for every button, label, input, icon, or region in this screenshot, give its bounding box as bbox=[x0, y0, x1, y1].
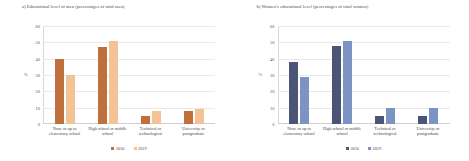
y-tick: 0 bbox=[272, 122, 274, 127]
panel-title-men: a) Educational level of men (percentages… bbox=[22, 4, 172, 10]
legend-label: 2010 bbox=[350, 146, 359, 151]
bar bbox=[55, 59, 64, 124]
y-tick: 0 bbox=[38, 122, 40, 127]
x-axis-tick-label: None or up to elementary school bbox=[278, 126, 321, 137]
bar bbox=[195, 109, 204, 124]
bar bbox=[152, 111, 161, 124]
y-tick: 40 bbox=[36, 56, 40, 61]
x-axis-labels-men: None or up to elementary schoolHigh scho… bbox=[43, 126, 215, 137]
x-axis-tick-label: Technical or technological bbox=[129, 126, 172, 137]
legend-item[interactable]: 2010 bbox=[346, 146, 359, 151]
bar bbox=[429, 108, 438, 124]
y-tick: 60 bbox=[270, 24, 274, 29]
panel-title-women: b) Women's educational level (percentage… bbox=[257, 4, 407, 10]
x-axis-tick-label: None or up to elementary school bbox=[43, 126, 86, 137]
bar bbox=[184, 111, 193, 124]
bar bbox=[109, 41, 118, 124]
y-tick: 30 bbox=[270, 73, 274, 78]
x-axis-tick-label: High school or middle school bbox=[86, 126, 129, 137]
panel-women: b) Women's educational level (percentage… bbox=[235, 0, 469, 161]
bar-group bbox=[278, 26, 321, 124]
bar bbox=[418, 116, 427, 124]
y-tick: 20 bbox=[36, 89, 40, 94]
legend-label: 2010 bbox=[116, 146, 125, 151]
y-tick: 10 bbox=[270, 105, 274, 110]
bar bbox=[300, 77, 309, 124]
legend-women: 20102019 bbox=[278, 146, 450, 151]
x-axis-tick-label: University or postgraduate bbox=[172, 126, 215, 137]
plot-area-women: 60 50 40 30 20 10 0 bbox=[278, 26, 450, 124]
bar-group bbox=[86, 26, 129, 124]
figure-container: a) Educational level of men (percentages… bbox=[0, 0, 469, 161]
y-axis-label-men: % bbox=[24, 72, 28, 77]
y-tick: 50 bbox=[270, 40, 274, 45]
bar-group bbox=[129, 26, 172, 124]
bar bbox=[386, 108, 395, 124]
bar bbox=[66, 75, 75, 124]
legend-label: 2019 bbox=[138, 146, 147, 151]
y-tick: 30 bbox=[36, 73, 40, 78]
bar bbox=[98, 47, 107, 124]
legend-item[interactable]: 2010 bbox=[111, 146, 124, 151]
x-axis-tick-label: Technical or technological bbox=[364, 126, 407, 137]
x-axis-tick-label: High school or middle school bbox=[321, 126, 364, 137]
x-axis-labels-women: None or up to elementary schoolHigh scho… bbox=[278, 126, 450, 137]
bar bbox=[141, 116, 150, 124]
plot-area-men: 60 50 40 30 20 10 0 bbox=[43, 26, 215, 124]
bar-group bbox=[321, 26, 364, 124]
y-tick: 60 bbox=[36, 24, 40, 29]
legend-item[interactable]: 2019 bbox=[134, 146, 147, 151]
bar-group bbox=[407, 26, 450, 124]
legend-swatch-icon bbox=[346, 147, 349, 150]
panel-men: a) Educational level of men (percentages… bbox=[0, 0, 235, 161]
y-tick: 20 bbox=[270, 89, 274, 94]
y-tick: 40 bbox=[270, 56, 274, 61]
bar-group bbox=[43, 26, 86, 124]
bar bbox=[289, 62, 298, 124]
y-axis-label-women: % bbox=[259, 72, 263, 77]
bar-group bbox=[364, 26, 407, 124]
y-tick: 50 bbox=[36, 40, 40, 45]
legend-swatch-icon bbox=[111, 147, 114, 150]
bar bbox=[343, 41, 352, 124]
bar bbox=[375, 116, 384, 124]
x-axis-tick-label: University or postgraduate bbox=[407, 126, 450, 137]
y-tick: 10 bbox=[36, 105, 40, 110]
legend-men: 20102019 bbox=[43, 146, 215, 151]
legend-item[interactable]: 2019 bbox=[368, 146, 381, 151]
bar-groups-women bbox=[278, 26, 450, 124]
legend-swatch-icon bbox=[368, 147, 371, 150]
legend-label: 2019 bbox=[373, 146, 382, 151]
bar bbox=[332, 46, 341, 124]
bar-groups-men bbox=[43, 26, 215, 124]
bar-group bbox=[172, 26, 215, 124]
legend-swatch-icon bbox=[134, 147, 137, 150]
